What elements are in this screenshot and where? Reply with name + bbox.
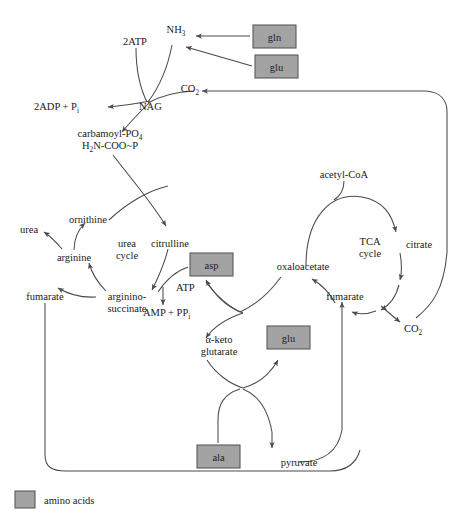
edge-carbamoyl-citrulline — [113, 155, 166, 226]
box-glu-mid[interactable]: glu — [267, 326, 310, 349]
edge-co2bottom-co2top — [202, 91, 447, 318]
label-nh3: NH3 — [167, 24, 186, 38]
edge-2atp-nag — [136, 48, 147, 102]
box-gln-label: gln — [268, 32, 282, 43]
label-tca-cycle-1: TCA — [360, 236, 381, 247]
edge-alphaketo-down — [207, 360, 243, 388]
label-atp: ATP — [176, 282, 195, 293]
label-2adp: 2ADP + Pi — [34, 101, 79, 115]
edge-glu-nh3 — [186, 47, 252, 66]
edge-ring-fumarate — [352, 311, 376, 314]
label-argininosuccinate-1: arginino- — [108, 291, 147, 302]
label-co2-bottom: CO2 — [404, 323, 423, 337]
label-fumarate-right: fumarate — [326, 291, 364, 302]
edge-argininosuccinate-arginine — [89, 263, 106, 291]
label-ornithine: ornithine — [69, 214, 107, 225]
edge-citrate-down — [400, 253, 402, 280]
label-pyruvate: pyruvate — [281, 457, 318, 468]
edge-ring-co2 — [381, 306, 400, 322]
label-alpha-keto-2: glutarate — [201, 346, 238, 357]
legend-label: amino acids — [44, 495, 94, 506]
label-citrulline: citrulline — [151, 238, 189, 249]
box-glu-mid-label: glu — [282, 333, 296, 344]
label-carbamoyl-formula: H2N-COO~P — [82, 140, 138, 154]
label-2atp: 2ATP — [123, 36, 147, 47]
box-asp-label: asp — [205, 260, 219, 271]
box-ala-label: ala — [212, 452, 225, 463]
label-urea-cycle-1: urea — [118, 238, 136, 249]
box-ala[interactable]: ala — [197, 445, 240, 468]
edge-ring-lower — [381, 285, 399, 310]
edge-cross-asp — [206, 280, 240, 312]
label-urea: urea — [20, 224, 38, 235]
edge-argininosuccinate-fumarate — [58, 288, 96, 297]
edge-arginine-ornithine — [74, 223, 85, 250]
legend-swatch — [15, 491, 35, 508]
edge-loop-glu — [243, 360, 278, 388]
label-acetyl-coa: acetyl-CoA — [320, 169, 369, 180]
label-argininosuccinate-2: succinate — [107, 303, 146, 314]
label-tca-cycle-2: cycle — [359, 248, 381, 259]
label-co2-top: CO2 — [181, 83, 200, 97]
box-glu-top-label: glu — [270, 62, 284, 73]
label-oxaloacetate: oxaloacetate — [277, 261, 330, 272]
edge-to-pyruvate — [243, 389, 272, 448]
label-urea-cycle-2: cycle — [116, 250, 138, 261]
edge-acetylcoa-in — [334, 181, 344, 200]
metabolic-pathway-diagram: 2ATP NH3 CO2 2ADP + Pi NAG carbamoyl-PO4… — [0, 0, 455, 513]
edge-oxaloacetate-citrate — [306, 196, 396, 266]
label-citrate: citrate — [406, 239, 433, 250]
edge-citrulline-argininosuccinate — [152, 249, 168, 290]
label-arginine: arginine — [57, 252, 92, 263]
pathway-edges — [44, 36, 447, 471]
label-amp: AMP + PPi — [143, 307, 190, 321]
edge-ala-glu — [218, 389, 240, 443]
edge-cross-ak-upper — [206, 282, 243, 313]
box-gln[interactable]: gln — [253, 25, 296, 48]
box-asp[interactable]: asp — [190, 253, 233, 276]
label-fumarate-left: fumarate — [26, 291, 64, 302]
edge-oxaloacetate-arc — [240, 277, 281, 312]
edge-nh3-nag — [148, 45, 172, 102]
box-glu-top[interactable]: glu — [255, 55, 298, 78]
label-alpha-keto-1: α-keto — [205, 334, 232, 345]
label-nag: NAG — [139, 101, 162, 112]
legend: amino acids — [15, 491, 94, 508]
edge-arginine-urea — [44, 232, 62, 249]
